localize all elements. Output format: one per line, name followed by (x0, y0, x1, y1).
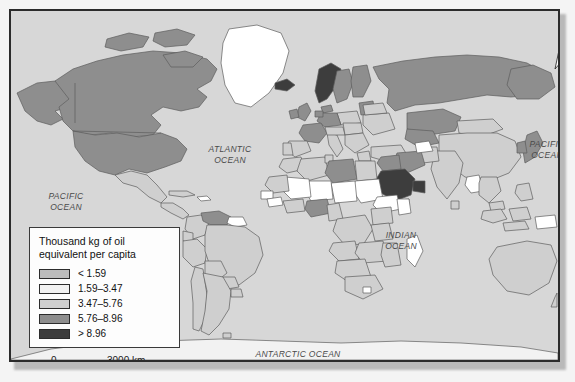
legend-swatch-1 (39, 269, 70, 279)
legend-label-1: < 1.59 (78, 268, 106, 279)
country-mozambique (381, 243, 401, 267)
country-switzerland-austria (325, 127, 345, 135)
country-usa (73, 131, 187, 175)
country-greece (357, 151, 371, 161)
legend-label-4: 5.76–8.96 (78, 313, 123, 324)
legend-swatch-4 (39, 314, 70, 324)
country-new-zealand (551, 293, 557, 307)
country-egypt (355, 161, 377, 181)
north-arrow-icon (554, 36, 560, 70)
country-cuba (169, 191, 195, 197)
legend-label-3: 3.47–5.76 (78, 298, 123, 309)
legend-swatch-2 (39, 284, 70, 294)
country-canada-arctic-2 (153, 29, 195, 47)
north-arrow-label: N (549, 25, 560, 35)
map-legend: Thousand kg of oil equivalent per capita… (29, 227, 180, 348)
country-philippines (515, 183, 533, 201)
country-ireland (289, 109, 299, 119)
legend-label-2: 1.59–3.47 (78, 283, 123, 294)
country-tanzania (371, 223, 393, 241)
country-balkans (345, 133, 369, 153)
country-indonesia-borneo (509, 207, 531, 221)
map-page: PACIFIC OCEAN PACIFIC OCEAN ATLANTIC OCE… (0, 0, 575, 382)
legend-row: 1.59–3.47 (39, 282, 171, 295)
country-indonesia-java (503, 221, 529, 231)
country-uae-oman (413, 181, 425, 193)
country-uk (297, 103, 311, 121)
island-falklands (223, 333, 231, 338)
legend-row: 5.76–8.96 (39, 312, 171, 325)
scale-bar-labels: 0 3000 km (51, 355, 186, 362)
legend-row: > 8.96 (39, 327, 171, 340)
country-australia (489, 241, 557, 295)
legend-label-5: > 8.96 (78, 328, 106, 339)
country-lesotho (363, 287, 371, 293)
country-drc (333, 215, 373, 245)
country-kenya-uganda (371, 207, 393, 225)
country-iceland (275, 79, 295, 91)
country-senegal (261, 191, 273, 199)
legend-row: 3.47–5.76 (39, 297, 171, 310)
country-central-america (161, 203, 189, 219)
country-romania-ukraine (363, 113, 395, 135)
country-peru (183, 239, 207, 267)
legend-swatch-5 (39, 329, 70, 339)
country-france (299, 123, 327, 143)
map-frame: PACIFIC OCEAN PACIFIC OCEAN ATLANTIC OCE… (9, 9, 560, 362)
country-sweden (333, 69, 353, 103)
country-thailand-indochina (479, 177, 501, 203)
country-iraq-syria (377, 155, 401, 171)
country-italy (327, 133, 343, 157)
country-algeria (297, 157, 329, 181)
country-chad (331, 181, 357, 203)
country-russia-east (507, 65, 555, 99)
country-hispaniola (197, 196, 211, 201)
country-finland (351, 65, 371, 97)
scale-bar-max-label: 3000 km (107, 355, 145, 362)
country-indonesia-sumatra (481, 209, 507, 223)
country-mauritania (265, 175, 289, 193)
scale-bar: 0 3000 km (51, 355, 186, 362)
country-sri-lanka (451, 201, 459, 209)
country-somalia (397, 199, 411, 215)
country-portugal (283, 143, 293, 155)
country-guinea-sierra (267, 197, 283, 207)
north-arrow: N (549, 25, 560, 73)
country-mexico (115, 171, 167, 203)
country-madagascar (407, 235, 423, 267)
country-uruguay (231, 289, 243, 297)
country-netherlands (315, 111, 323, 117)
legend-row: < 1.59 (39, 267, 171, 280)
map-canvas: PACIFIC OCEAN PACIFIC OCEAN ATLANTIC OCE… (11, 11, 558, 360)
legend-title: Thousand kg of oil equivalent per capita (39, 235, 171, 261)
legend-swatch-3 (39, 299, 70, 309)
country-korea (517, 141, 527, 153)
country-belarus (363, 103, 387, 115)
country-libya (325, 159, 357, 183)
scale-bar-min-label: 0 (51, 355, 57, 362)
country-papua-new-guinea (535, 215, 557, 229)
country-greenland (221, 25, 289, 107)
country-cote-divoire-ghana (283, 199, 305, 213)
country-canada-arctic-1 (105, 33, 149, 51)
country-angola (329, 241, 359, 261)
